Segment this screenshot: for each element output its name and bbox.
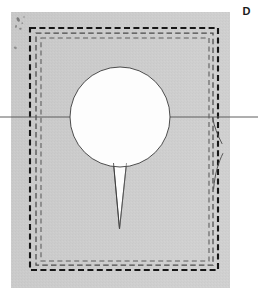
figure-image bbox=[0, 0, 258, 302]
speck-3 bbox=[19, 28, 22, 30]
speck-4 bbox=[21, 22, 23, 24]
circular-aperture bbox=[70, 67, 170, 167]
figure-panel: D bbox=[0, 0, 258, 302]
speck-6 bbox=[23, 16, 25, 18]
panel-label: D bbox=[243, 6, 251, 17]
